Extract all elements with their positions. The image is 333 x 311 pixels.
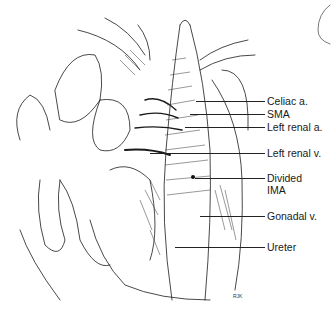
artist-signature: RJK — [233, 293, 243, 299]
label-celiac-artery: Celiac a. — [267, 95, 308, 107]
leader-line-left-renal-artery — [185, 127, 265, 128]
leader-line-ureter — [175, 247, 265, 248]
label-left-renal-artery: Left renal a. — [267, 121, 322, 133]
leader-line-left-renal-vein — [150, 153, 265, 154]
label-divided-ima-line1: Divided — [267, 172, 302, 184]
label-ureter: Ureter — [267, 241, 296, 253]
label-divided-ima-line2: IMA — [267, 184, 302, 196]
label-left-renal-vein: Left renal v. — [267, 147, 321, 159]
label-divided-ima: Divided IMA — [267, 172, 302, 196]
label-gonadal-vein: Gonadal v. — [267, 210, 317, 222]
leader-line-sma — [190, 114, 265, 115]
leader-line-divided-ima — [195, 178, 265, 179]
label-sma: SMA — [267, 108, 290, 120]
leader-line-gonadal-vein — [200, 216, 265, 217]
leader-line-celiac — [196, 101, 265, 102]
